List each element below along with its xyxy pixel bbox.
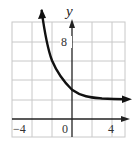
x-tick-neg4: −4 — [13, 122, 26, 136]
x-tick-0: 0 — [62, 122, 68, 136]
curve-arrow-up-icon — [38, 9, 46, 19]
y-axis-label: y — [64, 3, 73, 19]
y-axis-arrow-icon — [69, 19, 75, 28]
curve-arrow-right-icon — [122, 96, 132, 104]
graph: 8 y −4 0 4 — [0, 0, 135, 147]
y-tick-8: 8 — [61, 35, 67, 49]
x-tick-4: 4 — [108, 122, 114, 136]
